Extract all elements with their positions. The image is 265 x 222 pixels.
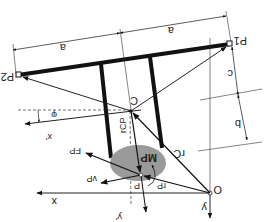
point-C xyxy=(129,109,132,112)
label-y-prime: y' xyxy=(116,212,123,222)
label-x: x xyxy=(51,196,57,208)
mechanics-diagram: P1 P2 a a c b C φ x' rCP rC FP MP vP P r… xyxy=(0,0,265,222)
dimension-c-b xyxy=(198,38,262,193)
label-b: b xyxy=(235,118,241,130)
leg-left xyxy=(101,64,111,158)
label-MP: MP xyxy=(141,152,158,164)
label-O: O xyxy=(213,184,222,196)
label-P1: P1 xyxy=(234,35,247,47)
label-rCP: rCP xyxy=(118,118,128,134)
leg-right xyxy=(150,57,162,148)
label-phi: φ xyxy=(51,110,57,120)
point-P xyxy=(139,173,143,177)
label-a-right: a xyxy=(167,25,174,37)
label-P: P xyxy=(134,181,140,191)
label-rP: rP xyxy=(157,181,166,191)
platform-bar xyxy=(18,44,230,75)
label-FP: FP xyxy=(69,146,81,156)
point-P2-marker xyxy=(16,72,21,77)
label-a-left: a xyxy=(59,42,66,54)
label-y: y xyxy=(201,202,207,214)
label-P2: P2 xyxy=(1,71,14,83)
point-P1-marker xyxy=(227,41,232,46)
label-c: c xyxy=(227,68,233,80)
label-C: C xyxy=(130,95,138,107)
label-vP: vP xyxy=(86,174,97,184)
label-rC: rC xyxy=(173,148,185,160)
label-x-prime: x' xyxy=(46,132,53,142)
